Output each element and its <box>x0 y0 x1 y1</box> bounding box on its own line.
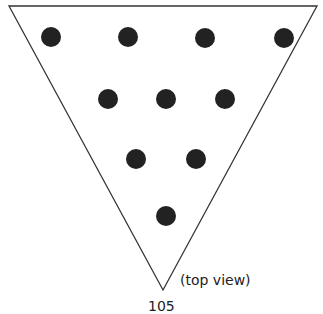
dot <box>118 27 138 47</box>
dot <box>41 27 61 47</box>
dot <box>186 149 206 169</box>
cutoff-text: 105 <box>148 298 175 314</box>
dot <box>195 28 215 48</box>
dot <box>215 89 235 109</box>
inverted-triangle <box>9 6 317 290</box>
top-view-caption: (top view) <box>180 272 251 288</box>
dot <box>156 89 176 109</box>
dot <box>126 149 146 169</box>
dots-group <box>41 27 294 226</box>
dot <box>98 89 118 109</box>
dot <box>156 206 176 226</box>
dot <box>274 28 294 48</box>
